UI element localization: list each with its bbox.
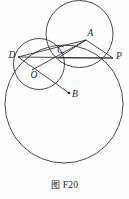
point-dot-B: [68, 92, 71, 95]
geometry-canvas: D C A P O B: [0, 0, 129, 176]
point-label-B: B: [72, 89, 78, 99]
caption-cn-char: 图: [51, 180, 60, 190]
segments-group: [18, 40, 113, 93]
large-circle: [5, 45, 123, 163]
circles-group: [5, 1, 123, 164]
geometry-figure: D C A P O B 图 F20: [0, 0, 129, 199]
caption-figure-id: F20: [63, 180, 79, 190]
point-label-O: O: [31, 70, 38, 80]
point-label-D: D: [8, 50, 16, 60]
point-label-A: A: [87, 28, 94, 38]
figure-caption: 图 F20: [0, 178, 129, 191]
point-label-C: C: [57, 45, 64, 55]
point-dots-group: [68, 92, 71, 95]
segment-A-P: [86, 40, 113, 58]
point-label-P: P: [115, 51, 122, 61]
